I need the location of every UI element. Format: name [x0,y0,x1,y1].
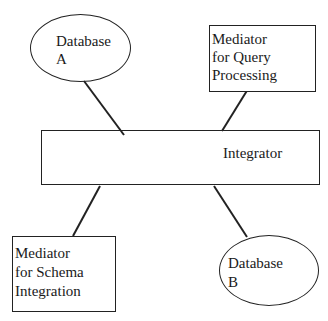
msi-line2: for Schema [15,263,84,282]
integrator-label: Integrator [223,144,282,163]
database-a-line2: A [56,50,67,69]
edge-mqp-integrator [222,89,248,131]
database-b-line1: Database [228,254,283,273]
mediator-schema-integration-node: Mediator for Schema Integration [12,236,116,312]
database-b-line2: B [228,273,238,292]
edge-integrator-msi [73,186,100,236]
mqp-line2: for Query [212,48,271,67]
integrator-node: Integrator [41,130,320,185]
mqp-line1: Mediator [212,30,267,49]
mediator-query-processing-node: Mediator for Query Processing [209,25,316,92]
database-a-node: Database A [30,14,131,82]
msi-line1: Mediator [15,244,70,263]
edge-dba-integrator [84,81,124,135]
database-a-line1: Database [56,32,111,51]
edge-integrator-dbb [214,186,247,237]
database-b-node: Database B [219,235,319,306]
msi-line3: Integration [15,282,81,301]
mqp-line3: Processing [212,66,277,85]
